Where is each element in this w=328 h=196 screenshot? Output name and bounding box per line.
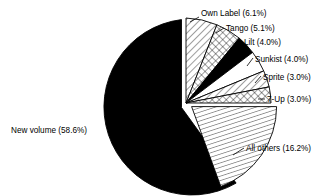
- label-7up: 7-Up (3.0%): [267, 95, 311, 104]
- pie-chart-figure: Own Label (6.1%) Tango (5.1%) Lilt (4.0%…: [0, 0, 328, 196]
- label-own-label: Own Label (6.1%): [201, 9, 267, 18]
- label-sprite: Sprite (3.0%): [263, 73, 311, 82]
- pie-chart-canvas: Own Label (6.1%) Tango (5.1%) Lilt (4.0%…: [0, 0, 328, 196]
- label-lilt: Lilt (4.0%): [244, 38, 281, 47]
- label-tango: Tango (5.1%): [226, 24, 275, 33]
- label-new-volume: New volume (58.6%): [11, 126, 87, 135]
- label-sunkist: Sunkist (4.0%): [255, 55, 309, 64]
- label-all-others: All others (16.2%): [246, 144, 311, 153]
